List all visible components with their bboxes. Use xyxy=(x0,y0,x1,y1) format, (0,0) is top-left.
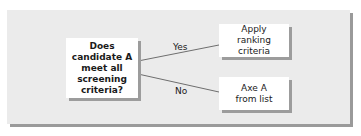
outcome-box-no: Axe A from list xyxy=(219,77,289,110)
no-label: No xyxy=(175,86,187,96)
outcome-box-yes: Apply ranking criteria xyxy=(219,24,289,57)
yes-label: Yes xyxy=(173,42,188,52)
decision-text: Does candidate A meet all screening crit… xyxy=(66,41,138,96)
connector-lines xyxy=(0,0,361,136)
outcome-no-text: Axe A from list xyxy=(231,83,277,105)
outcome-yes-text: Apply ranking criteria xyxy=(226,24,282,57)
decision-box: Does candidate A meet all screening crit… xyxy=(66,38,138,98)
